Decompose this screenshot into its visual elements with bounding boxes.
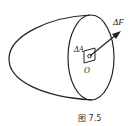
force-label: ΔF xyxy=(112,17,124,27)
area-element xyxy=(84,48,95,63)
area-label: ΔA xyxy=(73,45,84,54)
point-o-label: O xyxy=(84,66,90,75)
figure-caption: 图 7.5 xyxy=(78,114,101,123)
body-outline xyxy=(9,15,92,100)
stress-figure: ΔF ΔA O 图 7.5 xyxy=(0,0,134,126)
force-arrow-head xyxy=(112,31,121,39)
